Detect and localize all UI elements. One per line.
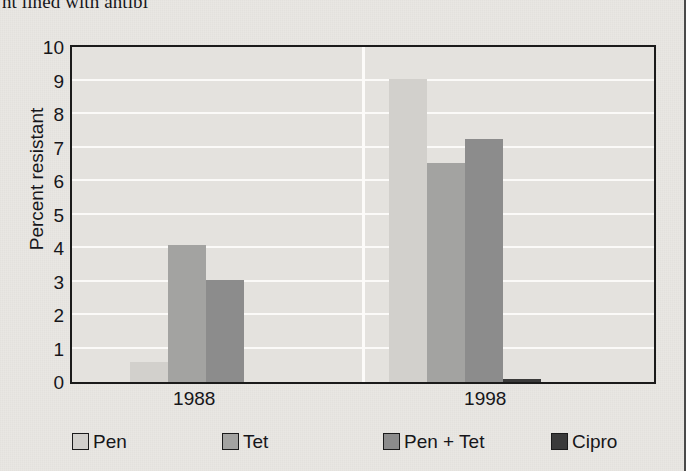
legend-item[interactable]: Cipro — [551, 428, 617, 454]
bar — [389, 79, 427, 382]
y-tick-label: 7 — [18, 139, 64, 158]
legend-item[interactable]: Pen + Tet — [383, 428, 484, 454]
bar — [465, 139, 503, 382]
y-tick-label: 10 — [18, 38, 64, 57]
bar — [206, 280, 244, 382]
legend-label: Pen + Tet — [404, 432, 484, 451]
bar — [168, 245, 206, 382]
bar — [503, 379, 541, 382]
bar-chart: Percent resistant 012345678910 19881998 … — [0, 0, 686, 471]
y-tick-label: 2 — [18, 306, 64, 325]
legend-item[interactable]: Tet — [222, 428, 268, 454]
chart-legend: PenTetPen + TetCipro — [0, 428, 686, 458]
legend-swatch-icon — [383, 433, 400, 450]
y-tick-label: 1 — [18, 340, 64, 359]
y-tick-label: 9 — [18, 72, 64, 91]
y-tick-label: 4 — [18, 239, 64, 258]
legend-label: Pen — [93, 432, 127, 451]
x-tick-label: 1988 — [134, 388, 254, 410]
legend-swatch-icon — [72, 433, 89, 450]
bar — [427, 163, 465, 382]
y-tick-label: 0 — [18, 373, 64, 392]
legend-swatch-icon — [222, 433, 239, 450]
legend-label: Cipro — [572, 432, 617, 451]
x-tick-label: 1998 — [425, 388, 545, 410]
legend-item[interactable]: Pen — [72, 428, 127, 454]
y-tick-label: 8 — [18, 105, 64, 124]
group-separator — [362, 47, 365, 382]
plot-inner — [72, 47, 654, 382]
legend-label: Tet — [243, 432, 268, 451]
plot-area — [70, 45, 656, 384]
bar — [130, 362, 168, 382]
y-tick-label: 6 — [18, 172, 64, 191]
y-tick-label: 5 — [18, 206, 64, 225]
legend-swatch-icon — [551, 433, 568, 450]
y-tick-label: 3 — [18, 273, 64, 292]
